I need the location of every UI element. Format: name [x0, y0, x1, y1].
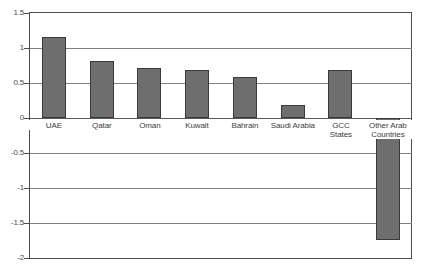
- category-label: GCC States: [316, 120, 366, 139]
- y-axis-tick: [24, 223, 29, 224]
- y-axis-tick-label: 1.5: [0, 9, 24, 17]
- y-axis-tick: [24, 83, 29, 84]
- gridline-neg1: [30, 188, 412, 189]
- bar: [137, 68, 161, 118]
- gridline-neg1_5: [30, 223, 412, 224]
- category-label: Saudi Arabia: [268, 120, 318, 130]
- y-axis-tick-label: -1.5: [0, 219, 24, 227]
- y-axis-line: [29, 12, 30, 259]
- y-axis-tick: [24, 258, 29, 259]
- category-label: UAE: [29, 120, 79, 130]
- category-label: Other Arab Countries: [363, 120, 413, 139]
- bar: [90, 61, 114, 118]
- bar: [281, 105, 305, 118]
- y-axis-tick-label: -1: [0, 184, 24, 192]
- bar: [42, 37, 66, 118]
- y-axis-tick: [24, 48, 29, 49]
- bar: [328, 70, 352, 118]
- y-axis-tick-label: 0: [0, 114, 24, 122]
- bar: [233, 77, 257, 118]
- y-axis-tick: [24, 153, 29, 154]
- gridline-0_5: [30, 83, 412, 84]
- category-label: Qatar: [77, 120, 127, 130]
- bar-chart: 1.510.50-0.5-1-1.5-2 UAEQatarOmanKuwaitB…: [0, 0, 422, 275]
- gridline-1: [30, 48, 412, 49]
- gridline-0: [30, 118, 412, 119]
- y-axis-tick: [24, 118, 29, 119]
- category-label: Oman: [125, 120, 175, 130]
- y-axis-tick-label: 1: [0, 44, 24, 52]
- y-axis-tick: [24, 13, 29, 14]
- y-axis-tick-label: -0.5: [0, 149, 24, 157]
- category-label: Bahrain: [220, 120, 270, 130]
- y-axis-tick: [24, 188, 29, 189]
- bar: [185, 70, 209, 118]
- gridline-neg0_5: [30, 153, 412, 154]
- y-axis-tick-label: 0.5: [0, 79, 24, 87]
- category-label: Kuwait: [172, 120, 222, 130]
- y-axis-tick-label: -2: [0, 254, 24, 262]
